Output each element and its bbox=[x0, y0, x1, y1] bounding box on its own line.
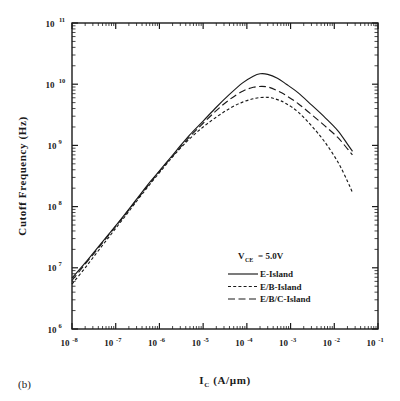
svg-text:10: 10 bbox=[48, 263, 58, 273]
plot-frame bbox=[72, 23, 378, 329]
svg-text:-4: -4 bbox=[247, 336, 253, 343]
svg-text:-5: -5 bbox=[203, 336, 209, 343]
x-tick-labels: 10-810-710-610-510-410-310-210-1 bbox=[61, 336, 384, 349]
legend-label-e-b-c-island: E/B/C-Island bbox=[260, 294, 311, 304]
svg-text:9: 9 bbox=[58, 138, 62, 145]
svg-text:-1: -1 bbox=[378, 336, 383, 343]
svg-text:10: 10 bbox=[61, 338, 71, 348]
annotation-value: = 5.0V bbox=[258, 251, 284, 261]
svg-text:10: 10 bbox=[48, 202, 58, 212]
data-curves bbox=[72, 74, 352, 285]
svg-text:-3: -3 bbox=[291, 336, 297, 343]
svg-text:11: 11 bbox=[59, 16, 65, 23]
svg-text:10: 10 bbox=[323, 338, 333, 348]
annotation-symbol: V bbox=[238, 251, 245, 261]
svg-text:10: 10 bbox=[48, 325, 58, 335]
svg-text:-6: -6 bbox=[160, 336, 166, 343]
series-e-b-island bbox=[72, 97, 352, 284]
svg-text:10: 10 bbox=[48, 141, 58, 151]
panel-label: (b) bbox=[18, 378, 31, 391]
y-axis-title: Cutoff Frequency (Hz) bbox=[16, 116, 29, 235]
svg-text:8: 8 bbox=[58, 199, 62, 206]
svg-text:IC (A/µm): IC (A/µm) bbox=[199, 374, 250, 389]
svg-text:6: 6 bbox=[58, 322, 62, 329]
svg-text:10: 10 bbox=[192, 338, 202, 348]
legend-label-e-island: E-Island bbox=[260, 269, 293, 279]
axis-ticks bbox=[72, 23, 378, 329]
series-e-island bbox=[72, 74, 352, 278]
svg-text:10: 10 bbox=[59, 77, 66, 84]
svg-text:7: 7 bbox=[58, 260, 62, 267]
legend-label-e-b-island: E/B-Island bbox=[260, 282, 302, 292]
svg-text:10: 10 bbox=[46, 19, 56, 29]
svg-text:Cutoff Frequency (Hz): Cutoff Frequency (Hz) bbox=[16, 116, 29, 235]
chart-legend: E-IslandE/B-IslandE/B/C-Island bbox=[228, 269, 311, 304]
figure-panel: 10-810-710-610-510-410-310-210-1 1061071… bbox=[0, 0, 400, 401]
svg-text:10: 10 bbox=[367, 338, 377, 348]
cutoff-frequency-chart: 10-810-710-610-510-410-310-210-1 1061071… bbox=[0, 0, 400, 401]
svg-text:-2: -2 bbox=[335, 336, 340, 343]
svg-text:10: 10 bbox=[104, 338, 114, 348]
annotation-subscript: CE bbox=[245, 257, 253, 263]
x-axis-title: IC (A/µm) bbox=[199, 374, 250, 389]
y-tick-labels: 10610710810910101011 bbox=[46, 16, 66, 335]
svg-text:10: 10 bbox=[235, 338, 245, 348]
svg-text:10: 10 bbox=[148, 338, 158, 348]
annotation-vce: VCE= 5.0V bbox=[238, 251, 284, 263]
series-e-b-c-island bbox=[72, 86, 352, 280]
svg-text:10: 10 bbox=[279, 338, 289, 348]
svg-text:10: 10 bbox=[46, 80, 56, 90]
svg-text:-7: -7 bbox=[116, 336, 122, 343]
svg-text:-8: -8 bbox=[72, 336, 78, 343]
